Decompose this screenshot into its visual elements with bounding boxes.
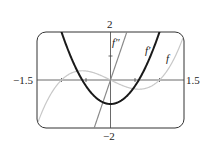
x-min-label: −1.5 [13, 75, 33, 86]
x-max-label: 1.5 [186, 75, 200, 86]
legend-f-double-prime: f″ [112, 37, 120, 48]
y-min-label: −2 [103, 131, 115, 142]
y-max-label: 2 [107, 19, 113, 30]
legend-f-prime: f′ [145, 45, 150, 56]
legend-f: f [166, 53, 169, 64]
